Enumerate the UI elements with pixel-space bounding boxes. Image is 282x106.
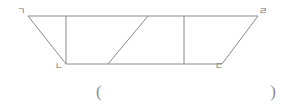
trapezoid-outline bbox=[28, 16, 258, 64]
close-paren: ) bbox=[270, 83, 276, 100]
answer-blank[interactable]: ( ) bbox=[96, 80, 276, 102]
vertex-label-bottom-left: ㄴ bbox=[55, 62, 63, 71]
vertex-label-top-right: ㄹ bbox=[259, 7, 267, 16]
vertex-label-bottom-right: ㄷ bbox=[215, 62, 223, 71]
vertex-label-top-left: ㄱ bbox=[17, 7, 25, 16]
interior-line-diagonal bbox=[108, 16, 148, 64]
diagram-container: ㄱ ㄹ ㄷ ㄴ ( ) bbox=[0, 0, 282, 106]
open-paren: ( bbox=[96, 83, 102, 100]
